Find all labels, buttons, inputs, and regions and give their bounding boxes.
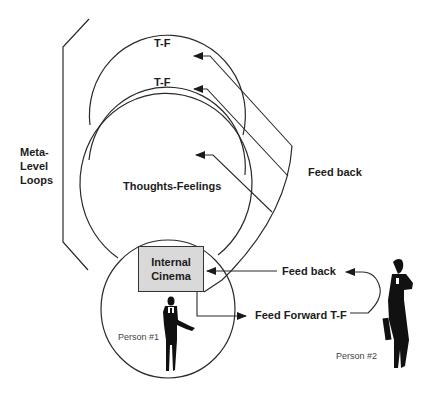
loop-circle-2 xyxy=(89,87,245,175)
meta-level-bracket xyxy=(63,19,89,270)
cinema-to-curve-line xyxy=(204,270,232,292)
meta-label-line2: Level xyxy=(20,159,53,173)
loop-label-1: T-F xyxy=(154,37,171,49)
cinema-line2: Cinema xyxy=(151,269,191,283)
diagram-canvas xyxy=(0,0,441,396)
meta-level-loops-label: Meta- Level Loops xyxy=(20,145,53,187)
meta-label-line1: Meta- xyxy=(20,145,53,159)
feedback-curve xyxy=(232,146,292,270)
loop-label-3: Thoughts-Feelings xyxy=(123,180,221,192)
feedback-label-upper: Feed back xyxy=(308,166,362,178)
feedforward-label: Feed Forward T-F xyxy=(255,309,347,321)
person2-loop-arc xyxy=(346,272,380,313)
internal-cinema-box: Internal Cinema xyxy=(138,246,204,292)
meta-label-line3: Loops xyxy=(20,173,53,187)
person1-figure xyxy=(163,297,195,372)
loop-label-2: T-F xyxy=(154,76,171,88)
person1-label: Person #1 xyxy=(118,332,159,342)
cinema-line1: Internal xyxy=(151,255,191,269)
person2-label: Person #2 xyxy=(336,351,377,361)
person2-figure xyxy=(382,259,413,368)
feedforward-arrow xyxy=(197,292,246,316)
feedback-label-lower: Feed back xyxy=(282,265,336,277)
feedback-arrow-2 xyxy=(194,89,288,176)
